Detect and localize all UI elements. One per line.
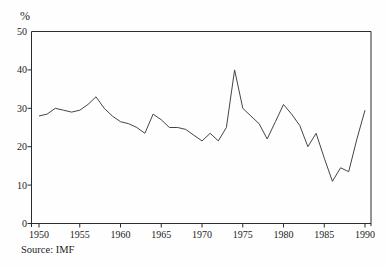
x-tick-label: 1955 (70, 229, 90, 240)
source-note: Source: IMF (21, 245, 74, 256)
x-tick-label: 1950 (29, 229, 49, 240)
x-tick-label: 1985 (314, 229, 334, 240)
x-tick-label: 1980 (274, 229, 294, 240)
x-tick-label: 1960 (111, 229, 131, 240)
y-tick-label: 0 (22, 218, 27, 229)
line-chart-svg: 0102030405019501955196019651970197519801… (0, 0, 388, 267)
y-tick-label: 10 (17, 180, 27, 191)
data-line-series (39, 70, 365, 181)
y-tick-label: 50 (17, 26, 27, 37)
x-tick-label: 1965 (151, 229, 171, 240)
chart-figure: % 01020304050195019551960196519701975198… (0, 0, 388, 267)
x-tick-label: 1975 (233, 229, 253, 240)
y-tick-label: 40 (17, 64, 27, 75)
x-tick-label: 1990 (355, 229, 375, 240)
y-tick-label: 20 (17, 141, 27, 152)
y-tick-label: 30 (17, 103, 27, 114)
x-tick-label: 1970 (192, 229, 212, 240)
